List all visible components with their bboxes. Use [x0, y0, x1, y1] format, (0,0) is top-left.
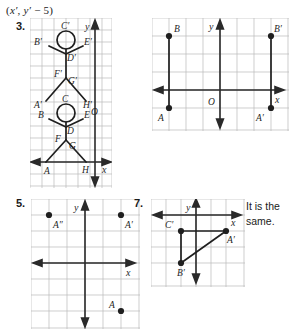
point-A — [118, 308, 124, 314]
problem-7-number: 7. — [134, 197, 143, 209]
label-A-double-prime: A″ — [52, 220, 64, 230]
label-A-prime: A′ — [226, 235, 236, 245]
point-A-double-prime — [46, 212, 52, 218]
label-C: C — [62, 94, 69, 104]
point-C-prime — [178, 228, 184, 234]
problem-5-number: 5. — [16, 197, 25, 209]
x-axis-arrow-left — [154, 87, 163, 94]
label-B-prime: B′ — [274, 24, 283, 34]
point-B-prime — [178, 260, 184, 266]
label-A-prime: A′ — [255, 113, 265, 123]
problem-5-graph: A″ A′ A y x — [31, 199, 140, 329]
x-axis-label: x — [125, 267, 131, 278]
y-axis-arrow-down — [82, 318, 89, 327]
answer-note-line-2: same. — [246, 214, 296, 229]
point-labels: A″ A′ A y x — [52, 202, 134, 310]
label-C-prime: C′ — [61, 21, 70, 31]
problem-7-svg: C′ A′ B′ y x — [151, 199, 245, 287]
y-axis-label: y — [185, 202, 191, 213]
x-axis-arrow-left — [31, 159, 40, 166]
problem-5-svg: A″ A′ A y x — [31, 199, 140, 329]
x-axis-label: x — [230, 217, 236, 228]
label-E-prime: E′ — [83, 37, 93, 47]
label-D: D — [66, 126, 74, 136]
label-O: O — [91, 107, 98, 117]
formula-close-paren: ) — [49, 4, 53, 16]
point-labels: C′ A′ B′ y x — [165, 202, 236, 278]
label-A: A — [43, 166, 50, 176]
y-axis-label: y — [73, 202, 79, 213]
vertex-labels: C′ B′ E′ D′ F′ G′ A′ H′ C B E D F G A H … — [33, 21, 107, 176]
formula-x-prime: x′ — [10, 4, 18, 16]
label-B-prime: B′ — [34, 37, 43, 47]
problem-3-graph: C′ B′ E′ D′ F′ G′ A′ H′ C B E D F G A H … — [30, 18, 112, 188]
label-B: B — [38, 110, 44, 120]
y-axis-label: y — [208, 21, 214, 32]
transformation-formula: (x′, y′ − 5) — [6, 4, 53, 16]
label-G-prime: G′ — [68, 76, 78, 86]
problem-4-svg: B A B′ A′ O y x — [152, 18, 289, 131]
label-A: A — [157, 113, 164, 123]
point-A — [166, 105, 172, 111]
label-B-prime: B′ — [177, 268, 186, 278]
x-axis-arrow-right — [126, 260, 135, 267]
label-F-prime: F′ — [53, 69, 63, 79]
y-axis-label: y — [84, 21, 90, 32]
label-H: H — [81, 165, 90, 175]
label-B: B — [174, 24, 180, 34]
label-A-prime: A′ — [33, 100, 43, 110]
point-A-prime — [268, 105, 274, 111]
label-D-prime: D′ — [66, 53, 77, 63]
label-A-prime: A′ — [124, 220, 134, 230]
y-axis-arrow-up — [82, 201, 89, 210]
x-axis-label: x — [274, 94, 280, 105]
x-axis-label: x — [101, 164, 107, 175]
problem-3-number: 3. — [16, 20, 25, 32]
label-origin: O — [208, 97, 215, 107]
y-axis-arrow-up — [92, 20, 99, 29]
formula-operator: − 5 — [31, 4, 49, 16]
point-A-prime — [118, 212, 124, 218]
y-axis-arrow-up — [193, 199, 200, 207]
label-A: A — [108, 300, 115, 310]
y-axis-arrow-down — [193, 274, 200, 283]
x-axis-arrow-right — [275, 87, 284, 94]
label-C-prime: C′ — [165, 220, 174, 230]
answer-note-line-1: It is the — [246, 199, 296, 214]
problem-4-graph: B A B′ A′ O y x — [152, 18, 289, 131]
label-E: E — [83, 110, 90, 120]
answer-note: It is the same. — [246, 199, 296, 229]
figure-left-arm-prime — [49, 46, 66, 54]
problem-7-graph: C′ A′ B′ y x — [151, 199, 245, 287]
point-B — [166, 33, 172, 39]
axes — [31, 20, 111, 186]
x-axis-arrow-left — [33, 260, 42, 267]
y-axis-arrow-down — [217, 119, 224, 128]
axes — [33, 201, 135, 327]
label-G: G — [69, 141, 76, 151]
problem-3-svg: C′ B′ E′ D′ F′ G′ A′ H′ C B E D F G A H … — [30, 18, 112, 188]
label-F: F — [54, 134, 61, 144]
x-axis-arrow-left — [153, 212, 162, 219]
y-axis-arrow-up — [217, 20, 224, 29]
y-axis-arrow-down — [92, 177, 99, 186]
point-A-prime — [223, 228, 229, 234]
